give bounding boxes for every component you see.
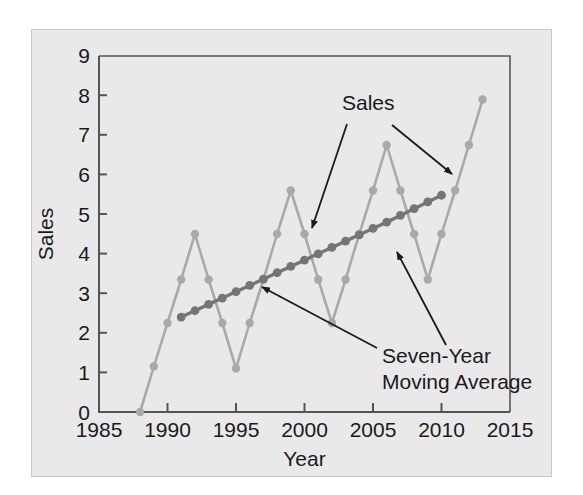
data-point	[191, 306, 200, 315]
data-point	[369, 224, 378, 233]
data-point	[410, 204, 419, 213]
y-tick-label-5: 5	[78, 203, 90, 226]
x-tick-label-2010: 2010	[418, 418, 465, 441]
x-axis-title: Year	[283, 447, 325, 470]
y-tick-label-8: 8	[78, 84, 90, 107]
data-point	[437, 230, 445, 238]
data-point	[300, 230, 308, 238]
data-point	[218, 294, 227, 303]
figure-root: 0 1 2 3 4 5 6 7 8 9 1985 1990 1995 2000 …	[0, 0, 583, 495]
sales-line-chart: 0 1 2 3 4 5 6 7 8 9 1985 1990 1995 2000 …	[0, 0, 583, 495]
data-point	[163, 319, 171, 327]
data-point	[341, 237, 350, 246]
annotation-moving-average-arrow-upper	[397, 252, 446, 345]
data-point	[177, 275, 185, 283]
x-tick-label-2005: 2005	[350, 418, 397, 441]
data-point	[177, 313, 186, 322]
annotation-sales-arrow-left	[312, 124, 347, 228]
y-tick-label-2: 2	[78, 321, 90, 344]
data-point	[341, 275, 349, 283]
data-point	[314, 275, 322, 283]
y-tick-label-1: 1	[78, 361, 90, 384]
x-tick-label-2000: 2000	[281, 418, 328, 441]
data-point	[314, 249, 323, 258]
y-axis-ticks	[99, 95, 107, 412]
data-point	[465, 141, 473, 149]
data-point	[286, 262, 295, 271]
y-axis-title: Sales	[34, 208, 57, 261]
data-point	[328, 243, 337, 252]
y-tick-label-4: 4	[78, 242, 90, 265]
y-tick-label-3: 3	[78, 282, 90, 305]
annotation-moving-average-line2: Moving Average	[382, 370, 532, 393]
data-point	[383, 141, 391, 149]
x-tick-label-1990: 1990	[144, 418, 191, 441]
y-tick-label-9: 9	[78, 44, 90, 67]
x-tick-label-1985: 1985	[76, 418, 123, 441]
data-point	[410, 230, 418, 238]
data-point	[396, 211, 405, 220]
data-point	[191, 230, 199, 238]
x-axis-ticks	[168, 403, 442, 412]
data-point	[451, 186, 459, 194]
annotation-moving-average-arrow-lower	[262, 287, 377, 348]
data-point	[396, 186, 404, 194]
data-point	[273, 268, 282, 277]
data-point	[232, 287, 241, 296]
x-tick-label-2015: 2015	[487, 418, 534, 441]
y-tick-label-6: 6	[78, 163, 90, 186]
data-point	[355, 230, 364, 239]
data-point	[245, 281, 254, 290]
data-point	[136, 408, 144, 416]
data-point	[423, 198, 432, 207]
data-point	[287, 186, 295, 194]
data-point	[478, 95, 486, 103]
y-tick-label-7: 7	[78, 123, 90, 146]
data-point	[218, 319, 226, 327]
annotation-sales-arrow-right	[392, 125, 452, 174]
x-tick-label-1995: 1995	[213, 418, 260, 441]
data-point	[246, 319, 254, 327]
data-point	[232, 364, 240, 372]
annotation-sales-label: Sales	[342, 91, 395, 114]
data-point	[273, 230, 281, 238]
data-point	[204, 300, 213, 309]
annotation-moving-average-line1: Seven-Year	[382, 344, 491, 367]
data-point	[369, 186, 377, 194]
x-axis-tick-labels: 1985 1990 1995 2000 2005 2010 2015	[76, 418, 534, 441]
data-point	[424, 275, 432, 283]
data-point	[150, 362, 158, 370]
data-point	[204, 275, 212, 283]
data-point	[382, 218, 391, 227]
data-point	[437, 191, 446, 200]
data-point	[259, 275, 268, 284]
y-axis-tick-labels: 0 1 2 3 4 5 6 7 8 9	[78, 44, 90, 423]
data-point	[300, 256, 309, 265]
